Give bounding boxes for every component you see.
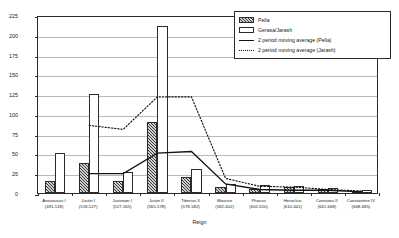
x-axis-category-label: Justin II(565-578): [139, 198, 173, 210]
chart-container: Averaged Annual Value (in nomismata) 025…: [0, 0, 399, 238]
y-axis-tick-label: 200: [0, 33, 18, 39]
legend-item-label: 2 period moving average (Jarash): [258, 47, 336, 53]
x-axis-tickmark: [140, 193, 141, 196]
y-axis-tick-label: 125: [0, 92, 18, 98]
x-axis-category-label: Justinian I(527-565): [105, 198, 139, 210]
x-axis-tickmark: [72, 193, 73, 196]
line-moving-average-jarash: [89, 97, 362, 191]
legend-item: 2 period moving average (Pella): [239, 35, 386, 45]
x-axis-tickmark: [379, 193, 380, 196]
y-axis-tickmark: [35, 37, 38, 38]
legend-item-label: Gerasa/Jarash: [258, 27, 292, 33]
x-axis-title: Reign: [0, 219, 399, 225]
x-axis-category-label: Constantine IV(668-685): [344, 198, 378, 210]
legend-swatch-line-jarash: [239, 50, 254, 51]
x-axis-tickmark: [311, 193, 312, 196]
x-axis-category-label: Justin I(518-527): [71, 198, 105, 210]
legend-item: Pella: [239, 15, 386, 25]
y-axis-tick-label: 175: [0, 53, 18, 59]
legend-item-label: 2 period moving average (Pella): [258, 37, 332, 43]
legend-swatch-gerasa: [239, 27, 254, 33]
y-axis-tick-label: 0: [0, 191, 18, 197]
x-axis-tickmark: [38, 193, 39, 196]
legend-item: 2 period moving average (Jarash): [239, 45, 386, 55]
y-axis-tick-label: 25: [0, 171, 18, 177]
y-axis-tickmark: [35, 17, 38, 18]
y-axis-tickmark: [35, 116, 38, 117]
y-axis-tick-label: 50: [0, 151, 18, 157]
legend-swatch-pella: [239, 17, 254, 23]
chart-legend: PellaGerasa/Jarash2 period moving averag…: [234, 11, 391, 59]
y-axis-tickmark: [35, 76, 38, 77]
y-axis-tickmark: [35, 96, 38, 97]
x-axis-category-label: Phocas(602-610): [242, 198, 276, 210]
x-axis-category-label: Maurice(582-602): [208, 198, 242, 210]
y-axis-tick-label: 100: [0, 112, 18, 118]
x-axis-category-label: Tiberius II(578-582): [173, 198, 207, 210]
x-axis-tickmark: [277, 193, 278, 196]
y-axis-tickmark: [35, 136, 38, 137]
legend-swatch-line-pella: [239, 40, 254, 41]
x-axis-category-label: Anastasius I(491-518): [37, 198, 71, 210]
legend-item-label: Pella: [258, 17, 270, 23]
y-axis-tickmark: [35, 175, 38, 176]
y-axis-tickmark: [35, 195, 38, 196]
y-axis-tick-label: 150: [0, 72, 18, 78]
x-axis-tickmark: [106, 193, 107, 196]
x-axis-category-label: Constans II(641-668): [310, 198, 344, 210]
x-axis-tickmark: [345, 193, 346, 196]
legend-item: Gerasa/Jarash: [239, 25, 386, 35]
x-axis-category-label: Heraclius(610-641): [276, 198, 310, 210]
line-moving-average-pella: [89, 151, 362, 191]
x-axis-tickmark: [209, 193, 210, 196]
x-axis-tickmark: [243, 193, 244, 196]
x-axis-tickmark: [174, 193, 175, 196]
y-axis-tick-label: 225: [0, 13, 18, 19]
y-axis-tick-label: 75: [0, 132, 18, 138]
y-axis-tickmark: [35, 57, 38, 58]
y-axis-tickmark: [35, 155, 38, 156]
